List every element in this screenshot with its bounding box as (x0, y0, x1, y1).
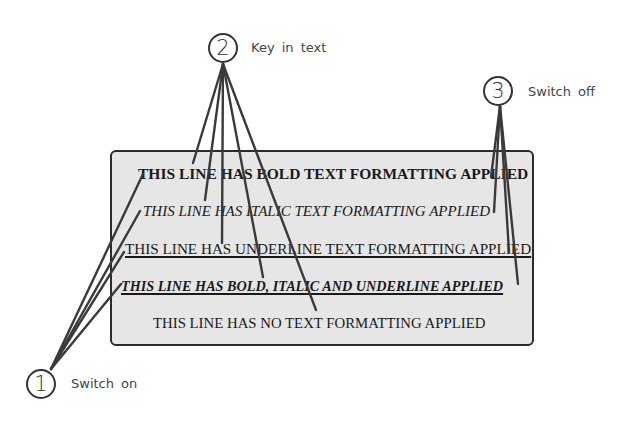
leader-2-bold (193, 64, 223, 163)
callout-1-label: Switch on (71, 376, 137, 391)
callout-2-label: Key in text (251, 40, 326, 55)
callout-2-number: 2 (216, 38, 229, 59)
callout-2-badge: 2 (208, 33, 238, 63)
sample-line-bold: THIS LINE HAS BOLD TEXT FORMATTING APPLI… (138, 165, 528, 183)
sample-line-italic: THIS LINE HAS ITALIC TEXT FORMATTING APP… (143, 202, 490, 220)
callout-3-badge: 3 (483, 76, 513, 106)
sample-line-bold-italic-underline: THIS LINE HAS BOLD, ITALIC AND UNDERLINE… (121, 277, 503, 295)
callout-3-label: Switch off (528, 84, 595, 99)
sample-line-underline: THIS LINE HAS UNDERLINE TEXT FORMATTING … (125, 240, 531, 258)
sample-line-plain: THIS LINE HAS NO TEXT FORMATTING APPLIED (153, 314, 485, 332)
callout-1-number: 1 (34, 374, 47, 395)
callout-3-number: 3 (491, 81, 504, 102)
callout-1-badge: 1 (26, 369, 56, 399)
formatting-diagram: THIS LINE HAS BOLD TEXT FORMATTING APPLI… (0, 0, 634, 425)
